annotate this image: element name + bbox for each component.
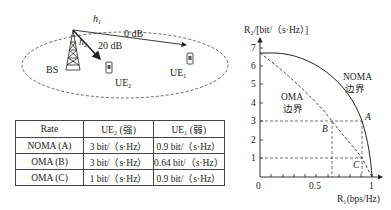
point-b-label: B [322,124,328,134]
svg-text:0: 0 [256,181,261,191]
cell-scheme: OMA (B) [16,154,84,170]
ue1-phone-icon [187,53,193,64]
x-axis-label: R₁(bps/Hz) [337,194,380,205]
ue2-label: UE2 [115,77,131,89]
rate-region-chart: 7 6 5 4 3 2 1 0 0.5 1 A B C N [244,24,382,205]
svg-text:边界: 边界 [345,84,365,94]
rate-table: Rate UE₂ (强) UE₁ (弱) NOMA (A) 3 bit/（s·H… [15,120,225,186]
svg-text:4: 4 [251,98,256,108]
svg-text:2: 2 [251,135,256,145]
svg-text:NOMA: NOMA [343,72,372,82]
cell-scheme: NOMA (A) [16,138,84,154]
svg-text:1: 1 [369,181,374,191]
svg-text:3: 3 [251,116,256,126]
cell-ue1-rate: 0.9 bit/（s·Hz） [154,138,225,154]
cell-diagram: h1 h2 0 dB 20 dB BS UE2 UE1 [22,13,228,98]
cell-ue2-rate: 3 bit/（s·Hz） [84,154,154,170]
table-row: NOMA (A) 3 bit/（s·Hz） 0.9 bit/（s·Hz） [16,138,225,154]
cell-ue2-rate: 1 bit/（s·Hz） [84,170,154,186]
x-tick-labels: 0 0.5 1 [256,181,374,191]
point-a-label: A [364,112,371,122]
svg-text:OMA: OMA [281,92,303,102]
table-row: OMA (C) 1 bit/（s·Hz） 0.9 bit/（s·Hz） [16,170,225,186]
ue1-label: UE1 [170,67,186,79]
svg-text:6: 6 [251,61,256,71]
header-rate: Rate [16,121,84,138]
y-axis-label: R₂/[bit/（s·Hz）] [244,24,308,35]
header-ue1: UE₁ (弱) [154,121,225,138]
y-tick-labels: 7 6 5 4 3 2 1 [251,43,256,163]
guide-lines [260,121,362,177]
svg-text:0.5: 0.5 [309,181,321,191]
svg-text:5: 5 [251,79,256,89]
h1-label: h1 [93,13,101,25]
cell-ue1-rate: 0.9 bit/（s·Hz） [154,170,225,186]
header-ue2: UE₂ (强) [84,121,154,138]
point-c-label: C [353,160,360,170]
cell-scheme: OMA (C) [16,170,84,186]
cell-ue2-rate: 3 bit/（s·Hz） [84,138,154,154]
table-header-row: Rate UE₂ (强) UE₁ (弱) [16,121,225,138]
h2-label: h2 [79,36,87,48]
boundary-labels: NOMA 边界 OMA 边界 [281,72,372,114]
bs-label: BS [46,64,58,75]
ue2-phone-icon [106,62,112,73]
svg-text:1: 1 [251,153,256,163]
link2-gain: 20 dB [98,40,123,51]
svg-text:边界: 边界 [283,104,303,114]
link1-gain: 0 dB [124,28,144,39]
cell-ue1-rate: 0.64 bit/（s·Hz） [154,154,225,170]
svg-text:7: 7 [251,43,256,53]
table-row: OMA (B) 3 bit/（s·Hz） 0.64 bit/（s·Hz） [16,154,225,170]
